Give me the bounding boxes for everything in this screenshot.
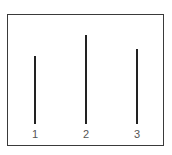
line-3-label: 3 bbox=[127, 128, 147, 140]
line-1-label: 1 bbox=[25, 128, 45, 140]
line-3 bbox=[136, 49, 138, 124]
line-2 bbox=[85, 35, 87, 124]
line-2-label: 2 bbox=[76, 128, 96, 140]
line-1 bbox=[34, 56, 36, 124]
